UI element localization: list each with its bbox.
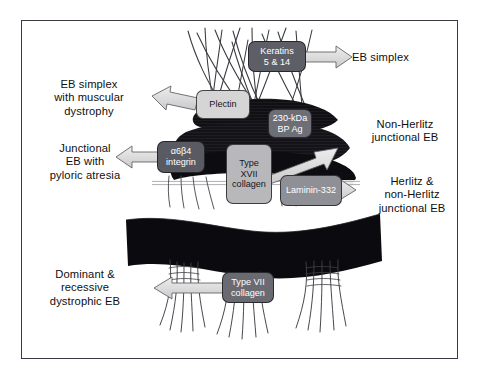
- molecule-box-keratins[interactable]: Keratins5 & 14: [248, 41, 306, 72]
- disease-label-herlitz-non-herlitz: Herlitz &non-Herlitzjunctional EB: [356, 175, 468, 215]
- figure-container: Keratins5 & 14 Plectin 230-kDaBP Ag α6β4…: [0, 0, 479, 379]
- disease-label-dominant-recessive-deb: Dominant &recessivedystrophic EB: [16, 268, 154, 308]
- molecule-box-label: 230-kDaBP Ag: [269, 113, 311, 134]
- molecule-box-col7[interactable]: Type VIIcollagen: [222, 272, 274, 303]
- molecule-box-plectin[interactable]: Plectin: [196, 90, 250, 119]
- molecule-box-label: Type VIIcollagen: [223, 277, 273, 298]
- molecule-box-laminin332[interactable]: Laminin-332: [280, 175, 342, 206]
- molecule-box-col17[interactable]: TypeXVIIcollagen: [226, 144, 272, 204]
- molecule-box-label: Keratins5 & 14: [249, 46, 305, 67]
- molecule-box-label: Plectin: [197, 99, 249, 110]
- disease-label-junctional-pyloric: JunctionalEB withpyloric atresia: [19, 142, 151, 182]
- arrow-dystrophic: [154, 277, 223, 299]
- disease-label-non-herlitz-junctional: Non-Herlitzjunctional EB: [349, 118, 461, 145]
- disease-label-eb-simplex: EB simplex: [352, 51, 462, 64]
- molecule-box-integrin[interactable]: α6β4integrin: [157, 141, 205, 173]
- molecule-box-label: α6β4integrin: [158, 146, 204, 167]
- arrow-eb-simplex: [304, 46, 352, 68]
- arrow-eb-simplex-muscular: [152, 86, 198, 110]
- lamina-densa: [126, 214, 382, 278]
- disease-label-eb-simplex-muscular: EB simplexwith musculardystrophy: [24, 78, 154, 118]
- molecule-box-label: TypeXVIIcollagen: [227, 158, 271, 190]
- molecule-box-bp230[interactable]: 230-kDaBP Ag: [268, 109, 312, 138]
- molecule-box-label: Laminin-332: [281, 185, 341, 196]
